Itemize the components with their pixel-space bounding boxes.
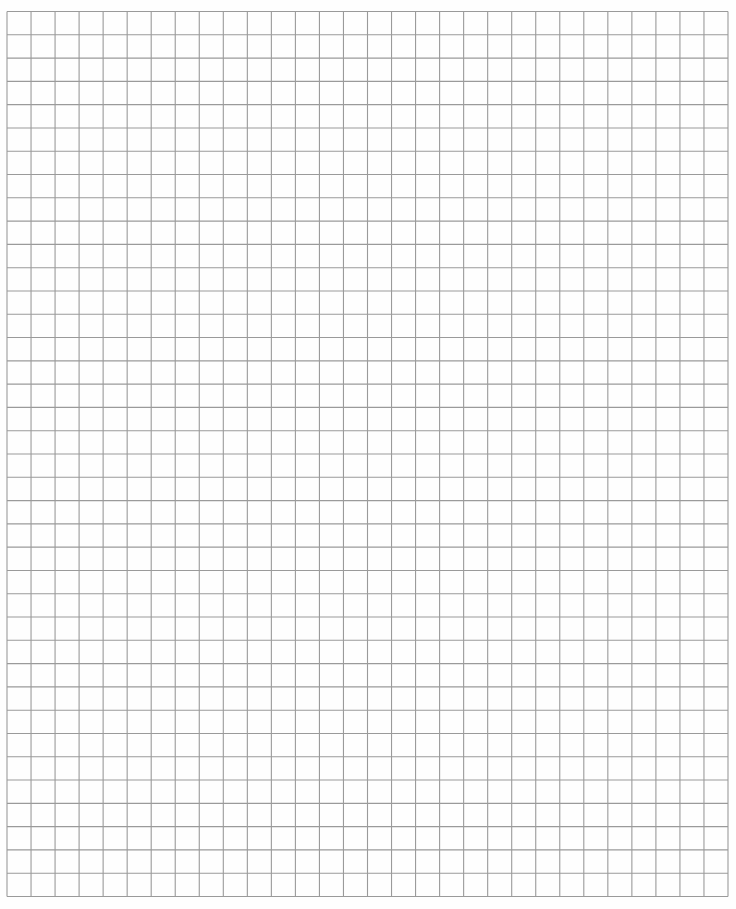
graph-paper-sheet: [0, 0, 736, 909]
square-grid: [0, 0, 736, 909]
grid-lines: [7, 12, 728, 897]
